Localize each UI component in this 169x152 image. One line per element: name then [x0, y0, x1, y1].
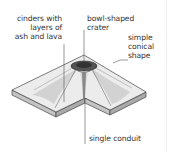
page-edge-divider — [166, 0, 167, 152]
label-crater-line2: crater — [87, 23, 134, 32]
label-crater-line1: bowl-shaped — [87, 14, 134, 23]
label-cinders-line2: layers of — [10, 23, 62, 32]
label-conduit: single conduit — [89, 134, 141, 143]
label-cinders-line3: ash and lava — [10, 32, 62, 41]
label-cinders-line1: cinders with — [10, 14, 62, 23]
label-shape-line2: conical — [128, 42, 154, 51]
cinder-cone-diagram: cinders with layers of ash and lava bowl… — [0, 0, 169, 152]
label-crater: bowl-shaped crater — [87, 14, 134, 32]
label-shape-line3: shape — [128, 51, 154, 60]
label-shape-line1: simple — [128, 33, 154, 42]
label-shape: simple conical shape — [128, 33, 154, 60]
leader-shape — [113, 60, 128, 63]
label-cinders: cinders with layers of ash and lava — [10, 14, 62, 41]
